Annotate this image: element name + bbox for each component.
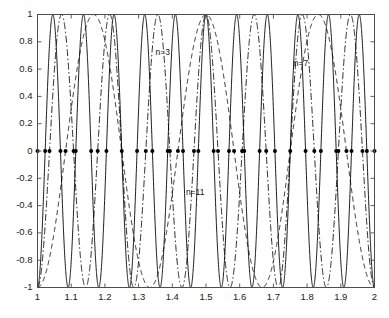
y-tick-label: -0.2 xyxy=(16,172,32,183)
zero-marker xyxy=(273,149,277,153)
zero-marker xyxy=(168,149,172,153)
y-tick-label: 0.8 xyxy=(19,35,32,46)
zero-marker xyxy=(58,149,62,153)
zero-marker xyxy=(360,149,364,153)
zero-marker xyxy=(192,149,196,153)
zero-marker xyxy=(264,149,268,153)
zero-marker xyxy=(89,149,93,153)
zero-marker xyxy=(196,149,200,153)
y-tick-label: -0.8 xyxy=(16,254,32,265)
y-tick-label: -0.6 xyxy=(16,226,32,237)
zero-marker xyxy=(104,149,108,153)
zero-marker xyxy=(336,149,340,153)
chart-figure: -1-0.8-0.6-0.4-0.200.20.40.60.8111.11.21… xyxy=(0,0,389,318)
zero-marker xyxy=(227,149,231,153)
zero-marker xyxy=(319,149,323,153)
zero-marker xyxy=(212,149,216,153)
y-tick-label: 0.6 xyxy=(19,63,32,74)
y-tick-label: -0.4 xyxy=(16,199,32,210)
x-tick-label: 2 xyxy=(355,291,389,302)
zero-marker xyxy=(232,149,236,153)
plot-canvas xyxy=(0,0,389,318)
zero-marker xyxy=(365,149,369,153)
curve-annotation-n-7: n=7 xyxy=(294,58,308,68)
y-tick-label: 0.4 xyxy=(19,90,32,101)
zero-marker xyxy=(48,149,52,153)
y-tick-label: 1 xyxy=(27,8,32,19)
zero-marker xyxy=(258,149,262,153)
zero-marker xyxy=(120,149,124,153)
zero-marker xyxy=(176,149,180,153)
zero-marker xyxy=(74,149,78,153)
curve-annotation-n-3: n=3 xyxy=(156,47,170,57)
zero-marker xyxy=(64,149,68,153)
zero-marker xyxy=(144,149,148,153)
zero-marker xyxy=(43,149,47,153)
zero-marker xyxy=(216,149,220,153)
zero-marker xyxy=(242,149,246,153)
zero-marker xyxy=(350,149,354,153)
zero-marker xyxy=(288,149,292,153)
y-tick-label: 0.2 xyxy=(19,117,32,128)
y-tick-label: 0 xyxy=(27,145,32,156)
zero-marker xyxy=(135,149,139,153)
zero-marker xyxy=(312,149,316,153)
zero-marker xyxy=(304,149,308,153)
zero-marker xyxy=(96,149,100,153)
curve-annotation-n-11: n=11 xyxy=(186,187,205,197)
zero-marker xyxy=(181,149,185,153)
zero-marker xyxy=(150,149,154,153)
zero-marker xyxy=(344,149,348,153)
plot-background xyxy=(38,15,375,288)
